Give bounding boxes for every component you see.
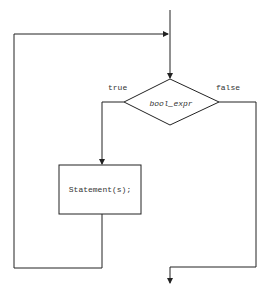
- condition-text: bool_expr: [149, 99, 192, 108]
- statement-text: Statement(s);: [69, 185, 131, 194]
- flowchart: true false bool_expr Statement(s);: [0, 0, 267, 293]
- false-branch-arrow: [170, 102, 256, 283]
- true-branch-arrow: [102, 102, 124, 164]
- loop-back-arrow: [14, 34, 168, 268]
- false-label: false: [216, 83, 240, 92]
- true-label: true: [108, 83, 127, 92]
